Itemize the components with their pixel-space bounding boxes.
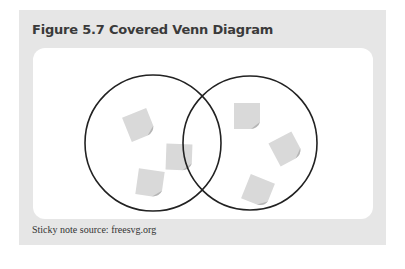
sticky-note-icon <box>135 168 164 197</box>
sticky-notes <box>122 103 304 208</box>
sticky-note-icon <box>166 144 193 171</box>
venn-canvas <box>33 48 373 219</box>
sticky-note-icon <box>241 174 275 208</box>
venn-diagram <box>33 48 373 219</box>
sticky-note-icon <box>122 108 156 142</box>
figure-caption: Sticky note source: freesvg.org <box>32 224 156 235</box>
figure-title: Figure 5.7 Covered Venn Diagram <box>32 22 273 37</box>
sticky-note-icon <box>268 131 303 166</box>
sticky-note-icon <box>234 103 260 129</box>
figure-panel: Figure 5.7 Covered Venn Diagram Sticky n… <box>19 10 386 245</box>
